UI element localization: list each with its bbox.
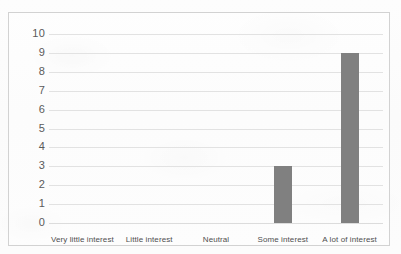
gridline xyxy=(49,34,383,35)
x-axis-tick-label: Very little interest xyxy=(51,235,114,244)
gridline xyxy=(49,91,383,92)
gridline xyxy=(49,204,383,205)
x-axis: Very little interestLittle interestNeutr… xyxy=(49,225,383,243)
y-axis-tick-label: 1 xyxy=(15,198,45,209)
y-axis-tick-label: 0 xyxy=(15,217,45,228)
y-axis-tick-label: 9 xyxy=(15,47,45,58)
y-axis-tick-label: 4 xyxy=(15,141,45,152)
gridline xyxy=(49,223,383,224)
x-axis-tick-label: Neutral xyxy=(203,235,230,244)
gridline xyxy=(49,166,383,167)
y-axis-tick-label: 8 xyxy=(15,66,45,77)
y-axis-tick-label: 7 xyxy=(15,85,45,96)
chart-page: 109876543210 Very little interestLittle … xyxy=(0,0,401,254)
y-axis-tick-label: 10 xyxy=(15,28,45,39)
gridline xyxy=(49,147,383,148)
y-axis-tick-label: 3 xyxy=(15,160,45,171)
y-axis-tick-label: 2 xyxy=(15,179,45,190)
x-axis-tick-label: Little interest xyxy=(126,235,173,244)
y-axis-tick-label: 6 xyxy=(15,104,45,115)
bar xyxy=(274,166,292,223)
x-axis-tick-label: A lot of interest xyxy=(322,235,377,244)
x-axis-tick-label: Some interest xyxy=(257,235,308,244)
y-axis: 109876543210 xyxy=(9,34,45,223)
chart-frame: 109876543210 Very little interestLittle … xyxy=(8,12,390,246)
gridline xyxy=(49,53,383,54)
gridline xyxy=(49,72,383,73)
gridline xyxy=(49,129,383,130)
bar xyxy=(341,53,359,223)
gridline xyxy=(49,185,383,186)
y-axis-tick-label: 5 xyxy=(15,123,45,134)
plot-area xyxy=(49,34,383,223)
gridline xyxy=(49,110,383,111)
